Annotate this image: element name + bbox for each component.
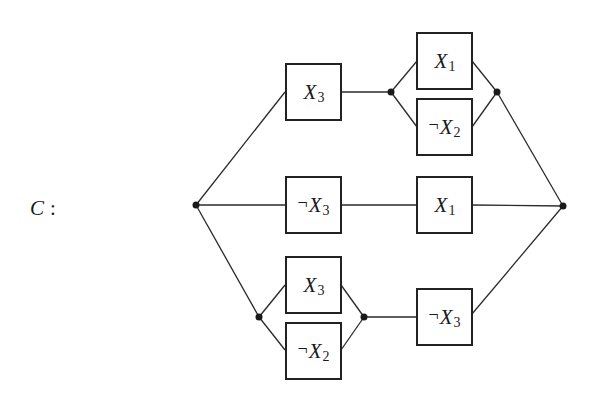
gate-variable: X: [435, 193, 448, 218]
wire-top-x1-to-junction: [472, 61, 497, 92]
gate-subscript: 3: [317, 283, 324, 299]
wire-bot-x3-to-junction: [341, 285, 364, 317]
gate-top-notx2: ¬X2: [417, 99, 472, 155]
wire-bot-junction-to-x3: [259, 285, 285, 317]
gate-top-x1: X1: [417, 33, 472, 89]
negation-symbol: ¬: [429, 305, 439, 326]
gate-subscript: 3: [322, 203, 329, 219]
gate-variable: X: [440, 115, 453, 140]
wire-top-junction-to-right: [497, 92, 563, 206]
wire-mid-x1-to-right: [472, 205, 563, 206]
wire-top-junction-to-x1: [391, 61, 417, 92]
wire-top-junction-to-notx2: [391, 92, 417, 127]
gate-bot-notx2: ¬X2: [286, 323, 341, 379]
wire-bot-notx3-to-right: [472, 206, 563, 314]
gate-variable: X: [304, 80, 317, 105]
gate-mid-x1: X1: [417, 177, 472, 233]
negation-symbol: ¬: [298, 193, 308, 214]
gate-subscript: 3: [317, 90, 324, 106]
wire-left-to-bot-junction: [196, 205, 259, 317]
negation-symbol: ¬: [429, 115, 439, 136]
gate-variable: X: [435, 49, 448, 74]
circuit-separator: :: [50, 196, 56, 220]
negation-symbol: ¬: [298, 339, 308, 360]
gate-mid-notx3: ¬X3: [286, 177, 341, 233]
junction-bot-split: [256, 314, 263, 321]
junction-top-merge: [494, 89, 501, 96]
gate-subscript: 2: [322, 349, 329, 365]
gate-variable: X: [440, 305, 453, 330]
junction-top-split: [388, 89, 395, 96]
gate-subscript: 1: [448, 203, 455, 219]
gate-subscript: 1: [448, 59, 455, 75]
junction-bot-merge: [361, 314, 368, 321]
wire-bot-notx2-to-junction: [341, 317, 364, 350]
circuit-label: C:: [30, 196, 56, 221]
wire-bot-junction-to-notx2: [259, 317, 285, 350]
gate-variable: X: [309, 193, 322, 218]
junction-right-main: [560, 203, 567, 210]
gate-variable: X: [309, 339, 322, 364]
gate-variable: X: [304, 273, 317, 298]
gate-top-x3: X3: [286, 64, 341, 120]
gate-bot-notx3: ¬X3: [417, 289, 472, 345]
gate-bot-x3: X3: [286, 257, 341, 313]
junction-left-main: [193, 202, 200, 209]
gate-subscript: 3: [453, 315, 460, 331]
wire-left-to-top-x3: [196, 92, 285, 205]
wire-top-notx2-to-junction: [472, 92, 497, 127]
gate-subscript: 2: [453, 125, 460, 141]
circuit-name: C: [30, 196, 44, 220]
